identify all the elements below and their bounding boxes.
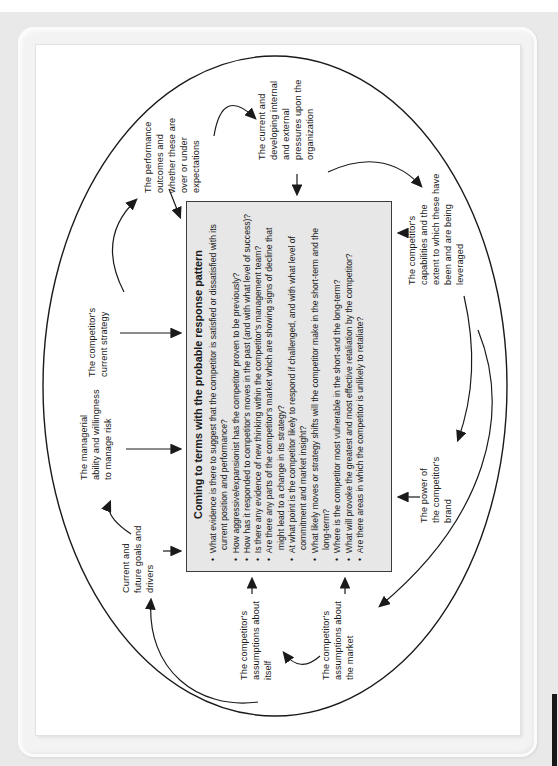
- figure-rotated-container: Coming to terms with the probable respon…: [0, 0, 558, 766]
- label-internal-external-pressures: The current and developing internal and …: [256, 80, 316, 160]
- label-competitor-current-strategy: The competitor's current strategy: [86, 308, 110, 377]
- arrow-strategy-to-performance: [112, 200, 136, 292]
- label-brand-power: The power of the competitor's brand: [418, 457, 454, 523]
- arrow-performance-to-pressures: [214, 106, 255, 136]
- bullet-item: How aggressive/expansionist has the comp…: [231, 208, 242, 561]
- bullet-item: At what point is the competitor likely t…: [287, 208, 310, 561]
- label-assumptions-about-market: The competitor's assumptions about the m…: [320, 601, 356, 680]
- label-managerial-ability: The managerial ability and willingness t…: [78, 389, 114, 480]
- bullet-item: Is there any evidence of new thinking wi…: [253, 208, 264, 561]
- box-bullet-list: What evidence is there to suggest that t…: [208, 208, 366, 561]
- arrow-market-to-itself: [284, 653, 320, 664]
- bullet-item: What likely moves or strategy shifts wil…: [310, 208, 333, 561]
- bullet-item: Are there any parts of the competitor's …: [264, 208, 287, 561]
- box-title: Coming to terms with the probable respon…: [192, 208, 205, 561]
- label-performance-outcomes: The performance outcomes and whether the…: [142, 118, 202, 193]
- bullet-item: What evidence is there to suggest that t…: [208, 208, 231, 561]
- bullet-item: Are there areas in which the competitor …: [355, 208, 366, 561]
- bullet-item: Where is the competitor most vulnerable …: [332, 208, 343, 561]
- label-goals-and-drivers: Current and future goals and drivers: [120, 526, 156, 594]
- arrow-capabilities-to-brand: [458, 296, 472, 440]
- response-pattern-box: Coming to terms with the probable respon…: [186, 201, 392, 572]
- label-assumptions-about-itself: The competitor's assumptions about itsel…: [238, 601, 274, 680]
- label-competitor-capabilities: The competitor's capabilities and the ex…: [406, 174, 466, 285]
- bullet-item: What will provoke the greatest and most …: [344, 208, 355, 561]
- page-edge-tab: [552, 694, 557, 766]
- scanned-book-page: Coming to terms with the probable respon…: [0, 0, 558, 766]
- arrow-expectations-to-box-corner: [169, 189, 180, 217]
- bullet-item: How has it responded to competitor's mov…: [242, 208, 253, 561]
